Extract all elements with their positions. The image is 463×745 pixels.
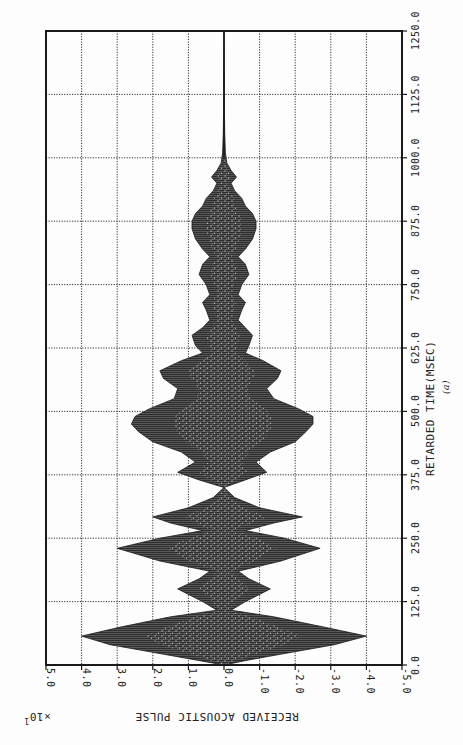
y-axis-label: RECEIVED ACOUSTIC PULSE	[135, 710, 299, 723]
time-tick-label: 375.0	[410, 458, 421, 491]
figure-caption: (a)	[441, 380, 451, 394]
amplitude-tick-label: 0.0	[223, 668, 234, 688]
y-axis-scale: ×101	[24, 710, 51, 725]
amplitude-tick-label: -3.0	[330, 668, 341, 694]
time-tick-label: 1000.0	[410, 138, 421, 177]
time-tick-label: 625.0	[410, 331, 421, 364]
y-axis-scale-base: ×10	[29, 710, 50, 723]
time-tick-label: 750.0	[410, 268, 421, 301]
amplitude-tick-label: -1.0	[259, 668, 270, 694]
amplitude-tick-label: 5.0	[45, 668, 56, 688]
amplitude-tick-label: 4.0	[81, 668, 92, 688]
time-tick-label: 1250.0	[410, 11, 421, 50]
time-tick-label: 875.0	[410, 205, 421, 238]
x-axis-label: RETARDED TIME(MSEC)	[424, 341, 437, 476]
amplitude-tick-label: -4.0	[365, 668, 376, 694]
time-tick-label: 250.0	[410, 522, 421, 555]
y-axis-scale-exponent: 1	[24, 716, 29, 725]
amplitude-tick-label: 2.0	[152, 668, 163, 688]
time-tick-label: 1125.0	[410, 74, 421, 113]
amplitude-tick-label: 3.0	[116, 668, 127, 688]
time-tick-label: 500.0	[410, 395, 421, 428]
chart-canvas	[0, 0, 463, 745]
amplitude-tick-label: -2.0	[294, 668, 305, 694]
amplitude-tick-label: 1.0	[187, 668, 198, 688]
time-tick-label: 0.0	[410, 655, 421, 675]
time-tick-label: 125.0	[410, 585, 421, 618]
